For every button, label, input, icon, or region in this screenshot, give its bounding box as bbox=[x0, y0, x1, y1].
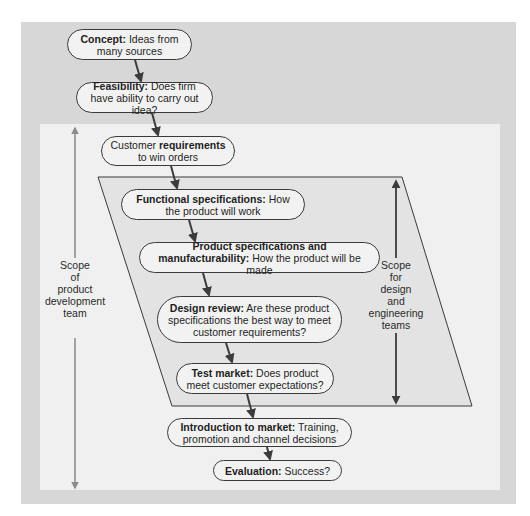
node-concept-title: Concept: bbox=[80, 33, 126, 45]
node-feasibility: Feasibility: Does firm have ability to c… bbox=[76, 82, 213, 113]
node-functional-specifications: Functional specifications: How the produ… bbox=[121, 189, 305, 220]
scope-label-line: teams bbox=[361, 319, 431, 331]
node-test-market: Test market: Does product meet customer … bbox=[176, 363, 334, 394]
scope-label-line: design bbox=[361, 283, 431, 295]
scope-label-line: of bbox=[40, 271, 110, 283]
design-engineering-scope-label: Scope for design and engineering teams bbox=[361, 259, 431, 331]
node-evaluation-title: Evaluation: bbox=[225, 465, 282, 477]
node-introduction-to-market-title: Introduction to market: bbox=[180, 421, 295, 433]
node-evaluation: Evaluation: Success? bbox=[213, 460, 342, 481]
node-product-specifications: Product specifications and manufacturabi… bbox=[139, 242, 380, 273]
scope-label-line: Scope bbox=[40, 259, 110, 271]
scope-label-line: team bbox=[40, 307, 110, 319]
node-feasibility-title: Feasibility: bbox=[93, 80, 148, 92]
scope-label-line: product bbox=[40, 283, 110, 295]
scope-label-line: development bbox=[40, 295, 110, 307]
node-customer-requirements-title: requirements bbox=[159, 139, 226, 151]
node-functional-specifications-title: Functional specifications: bbox=[136, 193, 266, 205]
node-design-review-title: Design review: bbox=[170, 302, 244, 314]
node-product-specifications-text: How the product will be made bbox=[246, 252, 360, 276]
scope-label-line: for bbox=[361, 271, 431, 283]
node-introduction-to-market: Introduction to market: Training, promot… bbox=[167, 418, 352, 447]
node-concept: Concept: Ideas from many sources bbox=[67, 29, 192, 60]
node-customer-requirements: Customer requirements to win orders bbox=[101, 136, 235, 166]
node-evaluation-text: Success? bbox=[282, 465, 330, 477]
product-development-scope-label: Scope of product development team bbox=[40, 259, 110, 319]
scope-label-line: engineering bbox=[361, 307, 431, 319]
scope-label-line: Scope bbox=[361, 259, 431, 271]
node-customer-requirements-pre: Customer bbox=[111, 139, 159, 151]
node-customer-requirements-text: to win orders bbox=[138, 151, 198, 163]
scope-label-line: and bbox=[361, 295, 431, 307]
node-design-review: Design review: Are these product specifi… bbox=[157, 296, 342, 343]
node-test-market-title: Test market: bbox=[191, 367, 253, 379]
